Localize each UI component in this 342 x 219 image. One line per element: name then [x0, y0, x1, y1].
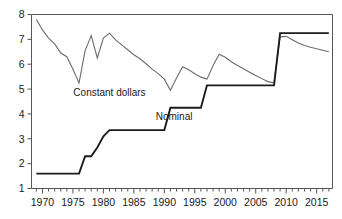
chart-canvas: 12345678 1970197519801985199019952000200…: [0, 0, 342, 219]
x-axis-ticks: [36, 189, 328, 194]
plot-frame: [32, 15, 333, 189]
x-tick-label: 2010: [275, 196, 299, 208]
series-line-constant-dollars: [36, 19, 328, 90]
series-annotation-label: Constant dollars: [73, 87, 145, 98]
x-tick-label: 1990: [153, 196, 177, 208]
x-tick-label: 2005: [244, 196, 268, 208]
x-tick-label: 1970: [31, 196, 55, 208]
x-tick-label: 2000: [214, 196, 238, 208]
axis-frame: [32, 15, 333, 189]
y-axis-tick-labels: 12345678: [19, 8, 25, 194]
series-annotations: Constant dollarsNominal: [73, 87, 192, 122]
y-tick-label: 7: [19, 33, 25, 45]
x-tick-label: 2015: [305, 196, 329, 208]
x-tick-label: 1975: [61, 196, 85, 208]
series-annotation-label: Nominal: [156, 111, 193, 122]
x-tick-label: 1980: [92, 196, 116, 208]
y-tick-label: 3: [19, 133, 25, 145]
y-axis-ticks: [28, 15, 32, 189]
y-tick-label: 8: [19, 8, 25, 20]
x-tick-label: 1985: [122, 196, 146, 208]
y-tick-label: 5: [19, 83, 25, 95]
x-axis-tick-labels: 1970197519801985199019952000200520102015: [31, 196, 329, 208]
y-tick-label: 6: [19, 58, 25, 70]
x-tick-label: 1995: [183, 196, 207, 208]
minimum-wage-line-chart: 12345678 1970197519801985199019952000200…: [0, 0, 342, 219]
series-line-nominal: [36, 33, 328, 173]
y-tick-label: 1: [19, 182, 25, 194]
y-tick-label: 4: [19, 108, 25, 120]
y-tick-label: 2: [19, 157, 25, 169]
